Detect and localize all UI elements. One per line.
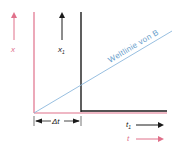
worldline-label: Weltlinie von B	[106, 28, 160, 65]
spacetime-diagram: x x1 Weltlinie von B Δt t1 t	[0, 0, 181, 154]
worldline-b	[34, 31, 172, 113]
t-label: t	[127, 134, 130, 143]
delta-t-label: Δt	[51, 117, 60, 126]
x-label: x	[10, 45, 16, 54]
x1-label: x1	[57, 45, 65, 55]
t1-label: t1	[126, 120, 131, 130]
